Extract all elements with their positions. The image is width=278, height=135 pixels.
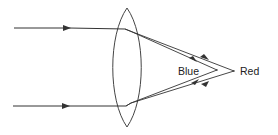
blue-focus-point xyxy=(216,69,218,71)
incident-ray-bottom xyxy=(13,103,126,109)
chromatic-aberration-diagram: Blue Red xyxy=(0,0,278,135)
incident-ray-top xyxy=(14,25,125,31)
red-label: Red xyxy=(240,65,259,77)
convex-lens xyxy=(113,8,142,127)
red-focus-point xyxy=(233,70,235,72)
blue-label: Blue xyxy=(178,65,199,77)
arrow-icon xyxy=(201,81,209,87)
arrow-icon xyxy=(200,54,209,60)
arrow-icon xyxy=(189,56,197,62)
